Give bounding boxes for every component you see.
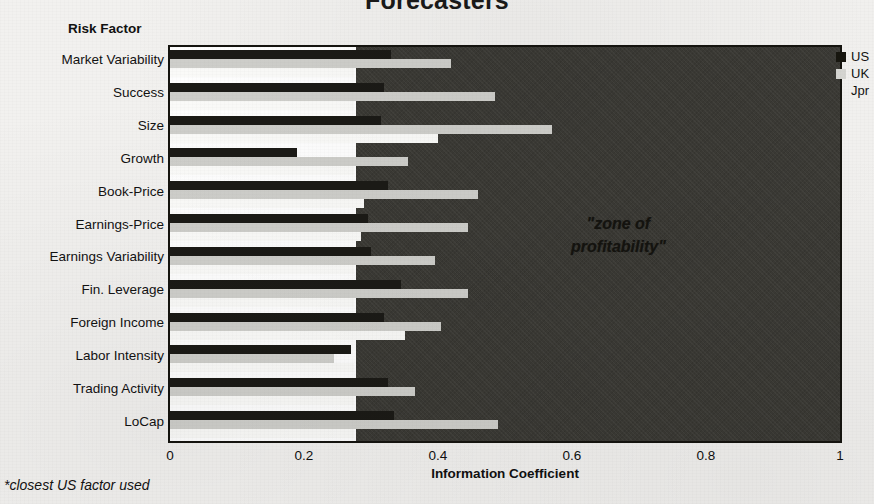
legend: USUKJpr bbox=[836, 48, 869, 99]
legend-swatch-icon bbox=[836, 69, 846, 79]
bar-uk bbox=[170, 289, 468, 298]
bar-group bbox=[170, 146, 840, 179]
bar-group bbox=[170, 244, 840, 277]
bar-us bbox=[170, 411, 394, 420]
category-label: Success bbox=[113, 85, 164, 100]
bar-us bbox=[170, 148, 297, 157]
bar-group bbox=[170, 277, 840, 310]
bar-uk bbox=[170, 256, 435, 265]
x-axis-ticks: 00.20.40.60.81 bbox=[168, 448, 842, 468]
bar-group bbox=[170, 178, 840, 211]
category-label: Growth bbox=[120, 151, 164, 166]
bar-uk bbox=[170, 223, 468, 232]
legend-swatch-icon bbox=[836, 52, 846, 62]
bar-uk bbox=[170, 420, 498, 429]
bar-uk bbox=[170, 354, 334, 363]
category-label: Foreign Income bbox=[70, 315, 164, 330]
bar-group bbox=[170, 47, 840, 80]
bar-jpr bbox=[170, 331, 405, 340]
category-label: Fin. Leverage bbox=[81, 282, 164, 297]
bar-jpr bbox=[170, 199, 364, 208]
legend-label: US bbox=[851, 49, 869, 64]
category-label: Book-Price bbox=[98, 184, 164, 199]
bar-uk bbox=[170, 157, 408, 166]
bar-jpr bbox=[170, 396, 354, 405]
footnote: *closest US factor used bbox=[4, 477, 150, 493]
category-label: Earnings Variability bbox=[49, 249, 164, 264]
bar-group bbox=[170, 310, 840, 343]
bar-jpr bbox=[170, 101, 354, 110]
x-tick-label: 0 bbox=[166, 448, 174, 463]
bar-us bbox=[170, 247, 371, 256]
bar-group bbox=[170, 113, 840, 146]
x-tick-label: 0.6 bbox=[563, 448, 582, 463]
bar-uk bbox=[170, 125, 552, 134]
category-label: Labor Intensity bbox=[75, 348, 164, 363]
x-tick-label: 0.2 bbox=[295, 448, 314, 463]
legend-entry: UK bbox=[836, 65, 869, 82]
category-label: Market Variability bbox=[61, 52, 164, 67]
bar-us bbox=[170, 181, 388, 190]
bar-group bbox=[170, 343, 840, 376]
bar-jpr bbox=[170, 298, 354, 307]
x-tick-label: 0.4 bbox=[429, 448, 448, 463]
category-label-column: Market VariabilitySuccessSizeGrowthBook-… bbox=[0, 45, 166, 443]
bar-us bbox=[170, 280, 401, 289]
bar-jpr bbox=[170, 68, 354, 77]
bar-uk bbox=[170, 92, 495, 101]
x-tick-label: 1 bbox=[836, 448, 844, 463]
bar-us bbox=[170, 214, 368, 223]
legend-entry: Jpr bbox=[836, 82, 869, 99]
legend-label: Jpr bbox=[851, 83, 869, 98]
bar-jpr bbox=[170, 429, 354, 438]
legend-entry: US bbox=[836, 48, 869, 65]
bar-jpr bbox=[170, 232, 361, 241]
bar-us bbox=[170, 50, 391, 59]
bar-group bbox=[170, 211, 840, 244]
bar-uk bbox=[170, 322, 441, 331]
bar-us bbox=[170, 83, 384, 92]
legend-label: UK bbox=[851, 66, 869, 81]
bar-us bbox=[170, 378, 388, 387]
legend-swatch-icon bbox=[836, 86, 846, 96]
plot-area: "zone ofprofitability" bbox=[168, 45, 842, 443]
bar-uk bbox=[170, 59, 451, 68]
bar-uk bbox=[170, 387, 415, 396]
bar-group bbox=[170, 80, 840, 113]
x-tick-label: 0.8 bbox=[697, 448, 716, 463]
bar-group bbox=[170, 408, 840, 441]
bar-uk bbox=[170, 190, 478, 199]
zone-label-line: "zone of bbox=[518, 212, 718, 235]
y-axis-title: Risk Factor bbox=[68, 21, 142, 36]
bar-jpr bbox=[170, 363, 354, 372]
bar-us bbox=[170, 313, 384, 322]
chart-title: Forecasters bbox=[0, 0, 874, 15]
bar-us bbox=[170, 345, 351, 354]
bar-jpr bbox=[170, 265, 354, 274]
zone-label-line: profitability" bbox=[518, 235, 718, 258]
zone-of-profitability-label: "zone ofprofitability" bbox=[518, 212, 718, 258]
category-label: Size bbox=[138, 118, 164, 133]
category-label: Trading Activity bbox=[73, 381, 164, 396]
bar-us bbox=[170, 116, 381, 125]
bar-jpr bbox=[170, 134, 438, 143]
x-axis-title: Information Coefficient bbox=[168, 466, 842, 481]
bar-jpr bbox=[170, 166, 354, 175]
bar-group bbox=[170, 375, 840, 408]
category-label: LoCap bbox=[124, 414, 164, 429]
category-label: Earnings-Price bbox=[75, 217, 164, 232]
